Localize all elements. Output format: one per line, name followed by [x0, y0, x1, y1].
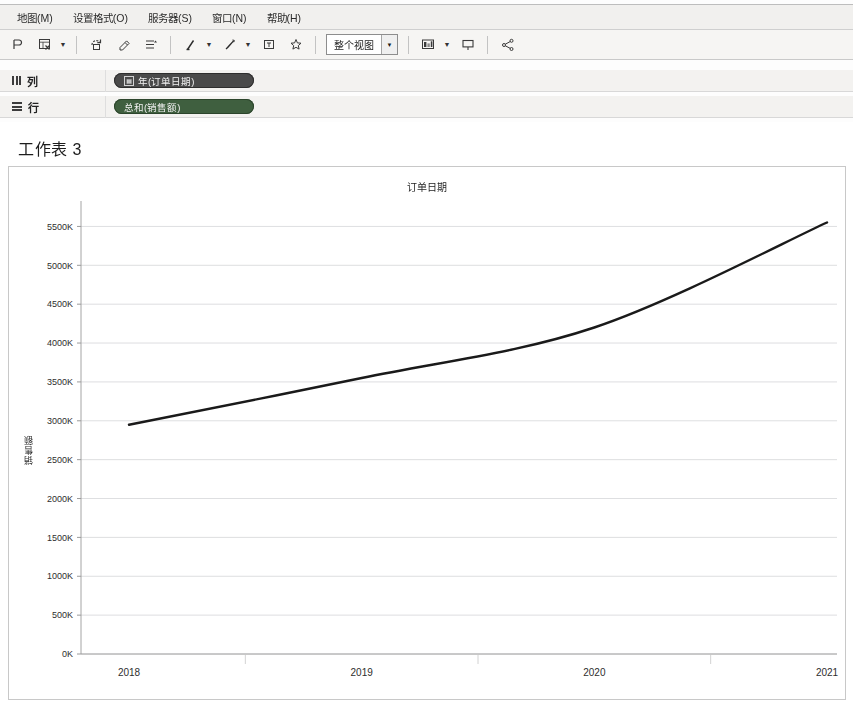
- svg-text:4500K: 4500K: [47, 299, 73, 309]
- fit-dropdown[interactable]: 整个视图 ▼: [326, 34, 398, 55]
- menu-item-help[interactable]: 帮助(H): [258, 7, 311, 28]
- rows-shelf-label: 行: [28, 99, 39, 115]
- pill-label: 年(订单日期): [138, 74, 194, 88]
- columns-shelf-label-group: 列: [0, 73, 105, 89]
- menu-item-server[interactable]: 服务器(S): [139, 7, 201, 28]
- svg-text:0K: 0K: [62, 649, 73, 659]
- toolbar-divider-4: [408, 36, 409, 54]
- fit-dropdown-label: 整个视图: [327, 35, 381, 54]
- svg-text:4000K: 4000K: [47, 338, 73, 348]
- svg-text:5000K: 5000K: [47, 261, 73, 271]
- columns-shelf[interactable]: 列 ▦ 年(订单日期): [0, 70, 853, 92]
- sort-ascending-icon[interactable]: [179, 33, 202, 56]
- rows-shelf-track[interactable]: 总和(销售额): [105, 96, 853, 118]
- toolbar-divider-3: [315, 36, 316, 54]
- show-mark-labels-icon[interactable]: [257, 33, 280, 56]
- duplicate-icon[interactable]: [85, 33, 108, 56]
- page-title: 工作表 3: [18, 136, 82, 160]
- svg-text:1500K: 1500K: [47, 533, 73, 543]
- columns-icon: [12, 76, 21, 85]
- new-worksheet-icon[interactable]: [33, 33, 56, 56]
- clear-sheet-icon[interactable]: [112, 33, 135, 56]
- calendar-icon: ▦: [124, 76, 134, 86]
- chart-canvas[interactable]: 订单日期 销售额 0K500K1000K1500K2000K2500K3000K…: [8, 166, 846, 700]
- toolbar-divider-2: [170, 36, 171, 54]
- worksheet-view: 工作表 3 订单日期 销售额 0K500K1000K1500K2000K2500…: [0, 122, 853, 705]
- toolbar-divider-5: [487, 36, 488, 54]
- toolbar: ▼ ▼: [0, 30, 853, 60]
- share-icon[interactable]: [496, 33, 519, 56]
- line-chart: 0K500K1000K1500K2000K2500K3000K3500K4000…: [9, 167, 845, 699]
- chevron-down-icon-fit[interactable]: ▼: [381, 35, 397, 54]
- svg-text:1000K: 1000K: [47, 571, 73, 581]
- svg-text:2018: 2018: [118, 667, 141, 678]
- swap-rows-columns-icon[interactable]: [139, 33, 162, 56]
- presentation-mode-icon[interactable]: [456, 33, 479, 56]
- sort-descending-icon[interactable]: [218, 33, 241, 56]
- svg-text:2500K: 2500K: [47, 455, 73, 465]
- highlight-icon[interactable]: [284, 33, 307, 56]
- svg-text:2020: 2020: [583, 667, 606, 678]
- pill-sum-sales[interactable]: 总和(销售额): [114, 99, 254, 114]
- menu-item-window[interactable]: 窗口(N): [203, 7, 256, 28]
- presentation-undo-icon[interactable]: [6, 33, 29, 56]
- svg-text:2000K: 2000K: [47, 494, 73, 504]
- rows-shelf-label-group: 行: [0, 99, 105, 115]
- show-hide-cards-icon[interactable]: [417, 33, 440, 56]
- pill-year-order-date[interactable]: ▦ 年(订单日期): [114, 73, 254, 88]
- rows-icon: [12, 102, 22, 111]
- chevron-down-icon[interactable]: ▼: [58, 34, 68, 55]
- svg-text:2021: 2021: [816, 667, 839, 678]
- svg-text:500K: 500K: [52, 610, 73, 620]
- chevron-down-icon-cards[interactable]: ▼: [442, 34, 452, 55]
- rows-shelf[interactable]: 行 总和(销售额): [0, 96, 853, 118]
- svg-text:2019: 2019: [351, 667, 374, 678]
- menu-bar: 地图(M) 设置格式(O) 服务器(S) 窗口(N) 帮助(H): [0, 4, 853, 30]
- columns-shelf-track[interactable]: ▦ 年(订单日期): [105, 70, 853, 92]
- tableau-window: 地图(M) 设置格式(O) 服务器(S) 窗口(N) 帮助(H) ▼: [0, 0, 853, 705]
- chevron-down-icon-sort2[interactable]: ▼: [243, 34, 253, 55]
- chevron-down-icon-sort[interactable]: ▼: [204, 34, 214, 55]
- pill-label: 总和(销售额): [124, 100, 180, 114]
- toolbar-divider: [76, 36, 77, 54]
- svg-text:5500K: 5500K: [47, 222, 73, 232]
- svg-text:3000K: 3000K: [47, 416, 73, 426]
- menu-item-format[interactable]: 设置格式(O): [64, 7, 137, 28]
- columns-shelf-label: 列: [27, 73, 38, 89]
- menu-item-map[interactable]: 地图(M): [8, 7, 62, 28]
- svg-text:3500K: 3500K: [47, 377, 73, 387]
